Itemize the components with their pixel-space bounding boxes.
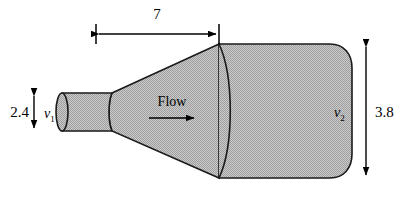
inlet-pipe-opening: [56, 93, 68, 131]
outlet-cylinder-shape: [219, 44, 352, 178]
length-dimension-label: 7: [153, 6, 161, 22]
outlet-diameter-dimension: 3.8: [366, 47, 394, 175]
outlet-diameter-label: 3.8: [375, 104, 394, 120]
inlet-diameter-label: 2.4: [10, 104, 29, 120]
inlet-velocity-subscript: 1: [50, 114, 55, 124]
diffuser-figure: 7 2.4 3.8 v1 v2 Flow: [0, 0, 405, 197]
cone-shape: [109, 44, 219, 178]
diffuser-body: [56, 44, 352, 178]
outlet-velocity-subscript: 2: [340, 113, 345, 123]
figure-canvas: 7 2.4 3.8 v1 v2 Flow: [0, 0, 405, 197]
length-dimension: 7: [96, 6, 219, 44]
inlet-velocity-label: v1: [44, 106, 55, 124]
flow-label: Flow: [158, 94, 188, 109]
inlet-diameter-dimension: 2.4: [10, 96, 34, 128]
